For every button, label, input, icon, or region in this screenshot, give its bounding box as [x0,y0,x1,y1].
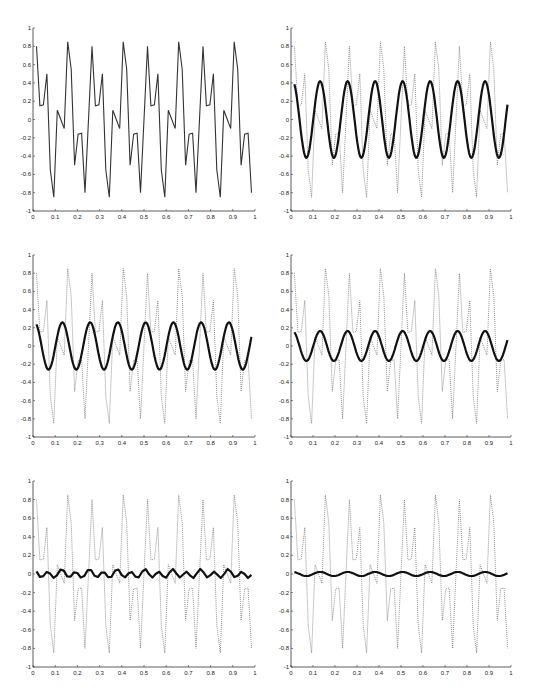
original-signal-line [37,42,252,198]
y-tick-label: 0.8 [23,497,32,503]
y-tick-label: -0.2 [279,590,290,596]
x-tick-label: 0.8 [206,214,215,220]
x-tick-label: 0.3 [95,440,104,446]
y-tick-label: 0 [28,117,32,123]
chart-panel-row2-col2: -1-0.8-0.6-0.4-0.200.20.40.60.8100.10.20… [279,252,514,446]
y-tick-label: 0 [286,343,290,349]
y-tick-label: 0.8 [23,43,32,49]
x-tick-label: 0.9 [485,440,494,446]
x-tick-label: 0.3 [95,214,104,220]
x-tick-label: 0.3 [353,670,362,676]
y-tick-label: 0.8 [23,270,32,276]
x-tick-label: 0.1 [51,214,60,220]
x-tick-label: 0.8 [206,440,215,446]
y-tick-label: 1 [28,478,32,484]
x-tick-label: 0.9 [229,214,238,220]
x-tick-label: 0.9 [485,214,494,220]
y-tick-label: -0.6 [21,627,32,633]
x-tick-label: 0 [289,440,293,446]
x-tick-label: 1 [509,214,513,220]
y-tick-label: 0.2 [23,552,32,558]
y-tick-label: -0.8 [21,645,32,651]
x-tick-label: 0.4 [375,214,384,220]
y-tick-label: -0.8 [21,416,32,422]
y-tick-label: 0 [28,343,32,349]
x-tick-label: 0.9 [485,670,494,676]
x-tick-label: 0.4 [118,440,127,446]
chart-panel-row3-col1: -1-0.8-0.6-0.4-0.200.20.40.60.8100.10.20… [21,478,258,676]
chart-panel-row2-col1: -1-0.8-0.6-0.4-0.200.20.40.60.8100.10.20… [21,252,258,446]
x-tick-label: 0.2 [73,214,82,220]
x-tick-label: 0.5 [397,670,406,676]
y-tick-label: -0.8 [279,190,290,196]
y-tick-label: 0.4 [23,534,32,540]
y-tick-label: -0.6 [279,398,290,404]
x-tick-label: 0.8 [463,670,472,676]
y-tick-label: -0.2 [21,135,32,141]
y-tick-label: 1 [286,25,290,31]
x-tick-label: 0.1 [51,440,60,446]
x-tick-label: 0.7 [184,214,193,220]
y-tick-label: 0.4 [23,307,32,313]
y-tick-label: -0.4 [21,153,32,159]
x-tick-label: 0.1 [309,670,318,676]
x-tick-label: 0.6 [419,214,428,220]
x-tick-label: 0.1 [309,214,318,220]
x-tick-label: 0.6 [162,440,171,446]
y-tick-label: 0.6 [23,515,32,521]
x-tick-label: 1 [253,670,257,676]
y-tick-label: 0.8 [281,43,290,49]
x-tick-label: 0 [289,670,293,676]
y-tick-label: 0.8 [281,497,290,503]
x-tick-label: 0.5 [140,670,149,676]
y-tick-label: 1 [28,252,32,258]
x-tick-label: 0.1 [51,670,60,676]
approximation-line [294,572,507,576]
y-tick-label: 0.2 [23,98,32,104]
x-tick-label: 0.3 [353,440,362,446]
y-tick-label: 0.2 [281,98,290,104]
y-tick-label: -0.4 [279,153,290,159]
y-tick-label: 0.2 [23,325,32,331]
y-tick-label: -0.4 [279,379,290,385]
x-tick-label: 0.6 [419,670,428,676]
x-tick-label: 0 [31,670,35,676]
x-tick-label: 0.6 [162,670,171,676]
y-tick-label: 0.6 [23,288,32,294]
x-tick-label: 0.7 [441,440,450,446]
chart-panel-row1-col2: -1-0.8-0.6-0.4-0.200.20.40.60.8100.10.20… [279,25,514,220]
x-tick-label: 0.2 [73,440,82,446]
x-tick-label: 0.3 [353,214,362,220]
x-tick-label: 0 [31,214,35,220]
y-tick-label: -0.2 [21,361,32,367]
x-tick-label: 0.4 [118,214,127,220]
y-tick-label: -0.6 [279,627,290,633]
y-tick-label: 0.6 [281,62,290,68]
figure-canvas: -1-0.8-0.6-0.4-0.200.20.40.60.8100.10.20… [0,0,535,691]
y-tick-label: -0.6 [21,171,32,177]
y-tick-label: 0.4 [281,534,290,540]
x-tick-label: 0.4 [118,670,127,676]
y-tick-label: -0.4 [21,608,32,614]
x-tick-label: 0.6 [162,214,171,220]
chart-panel-row3-col2: -1-0.8-0.6-0.4-0.200.20.40.60.8100.10.20… [279,478,514,676]
x-tick-label: 0.7 [441,214,450,220]
y-tick-label: 0.8 [281,270,290,276]
y-tick-label: -0.2 [21,590,32,596]
y-tick-label: -0.6 [21,398,32,404]
y-tick-label: 0.4 [23,80,32,86]
x-tick-label: 1 [253,440,257,446]
y-tick-label: 0.2 [281,552,290,558]
x-tick-label: 0.5 [140,214,149,220]
x-tick-label: 0.3 [95,670,104,676]
y-tick-label: -0.8 [21,190,32,196]
x-tick-label: 0.4 [375,670,384,676]
x-tick-label: 0.8 [463,440,472,446]
y-tick-label: -0.2 [279,135,290,141]
x-tick-label: 0.7 [184,670,193,676]
x-tick-label: 0.5 [397,440,406,446]
y-tick-label: 0 [28,571,32,577]
caption-fragment [40,683,520,691]
x-tick-label: 0.7 [184,440,193,446]
y-tick-label: 1 [28,25,32,31]
